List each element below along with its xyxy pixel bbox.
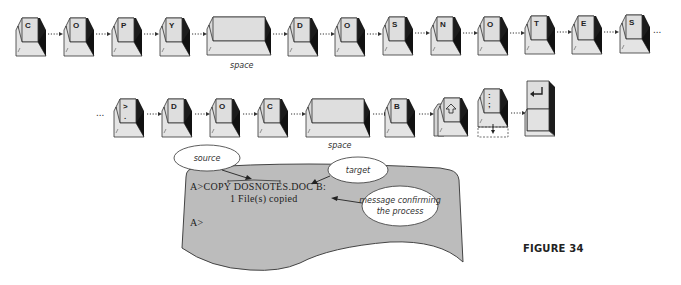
key-S: S: [620, 15, 650, 53]
figure-label: FIGURE 34: [523, 243, 584, 254]
key-N: N: [431, 17, 461, 55]
arrow-icon: [192, 32, 207, 36]
key-O: O: [335, 18, 365, 56]
arrow-icon: [48, 32, 63, 36]
svg-text:O: O: [487, 20, 493, 29]
svg-text:S: S: [629, 18, 635, 27]
svg-text:O: O: [344, 21, 350, 30]
key-enter: [525, 81, 555, 136]
svg-text:P: P: [121, 21, 127, 30]
arrow-icon: [367, 32, 382, 36]
arrow-icon: [419, 112, 434, 116]
key-S: S: [383, 17, 413, 55]
key-B: B: [385, 99, 415, 137]
svg-text:T: T: [534, 19, 539, 28]
svg-text:O: O: [73, 21, 79, 30]
arrow-icon: [510, 31, 525, 35]
source-filename: DOSNOTES.DOC: [234, 181, 313, 192]
continuation-ellipsis: ...: [653, 24, 661, 35]
svg-text:source: source: [194, 154, 221, 163]
key-D: D: [162, 99, 192, 137]
screen-line-2: 1 File(s) copied: [230, 193, 298, 205]
row2-keys: ... > . D O C space B: [96, 81, 555, 150]
svg-text:O: O: [219, 102, 225, 111]
key-P: P: [112, 18, 142, 56]
svg-text:A>COPY DOSNOTES.DOC B:: A>COPY DOSNOTES.DOC B:: [190, 181, 326, 192]
arrow-icon: [557, 30, 572, 34]
arrow-icon: [511, 111, 526, 115]
key-space: [207, 17, 271, 55]
svg-text:C: C: [267, 102, 273, 111]
space-caption: space: [328, 141, 352, 150]
svg-text:;: ;: [488, 100, 491, 109]
arrow-icon: [195, 112, 210, 116]
key-T: T: [525, 16, 555, 54]
svg-text:target: target: [346, 166, 371, 175]
key-C: C: [16, 18, 46, 56]
svg-text:message confirming: message confirming: [359, 196, 440, 205]
key-C: C: [258, 99, 288, 137]
svg-text:Y: Y: [169, 21, 175, 30]
svg-text:>: >: [123, 102, 128, 111]
svg-text:N: N: [440, 20, 446, 29]
key-shift: [434, 98, 468, 136]
svg-text::: :: [488, 91, 491, 100]
svg-text:S: S: [392, 20, 398, 29]
screen-line-3: A>: [190, 217, 204, 228]
leading-ellipsis: ...: [96, 107, 104, 118]
arrow-icon: [273, 32, 288, 36]
arrow-icon: [243, 112, 258, 116]
svg-text:E: E: [581, 19, 587, 28]
space-caption: space: [230, 61, 254, 70]
svg-text:C: C: [25, 21, 31, 30]
key-O: O: [478, 17, 508, 55]
key-colon: : ;: [478, 89, 508, 137]
key-space: [306, 99, 370, 137]
key-O: O: [64, 18, 94, 56]
arrow-icon: [144, 32, 159, 36]
arrow-icon: [320, 32, 335, 36]
row1-keys: C O P Y space D O S N: [16, 15, 661, 70]
arrow-icon: [604, 30, 619, 34]
svg-text:.: .: [124, 112, 126, 121]
svg-text:D: D: [297, 21, 303, 30]
key-D: D: [288, 18, 318, 56]
arrow-icon: [463, 31, 478, 35]
key-Y: Y: [160, 18, 190, 56]
arrow-icon: [96, 32, 111, 36]
arrow-icon: [291, 112, 306, 116]
key-E: E: [572, 16, 602, 54]
svg-text:B: B: [394, 102, 400, 111]
key-O: O: [210, 99, 240, 137]
svg-text:the process: the process: [377, 207, 424, 216]
arrow-icon: [147, 112, 162, 116]
arrow-icon: [415, 31, 430, 35]
key-greater-than: > .: [114, 99, 144, 137]
svg-text:D: D: [171, 102, 177, 111]
screen-line-1: A>COPY DOSNOTES.DOC B:: [190, 180, 326, 192]
